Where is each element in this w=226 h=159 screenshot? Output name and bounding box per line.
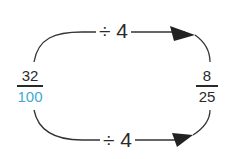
- top-operation: ÷ 4: [96, 20, 131, 42]
- right-denominator: 25: [196, 88, 218, 105]
- right-numerator: 8: [196, 67, 218, 84]
- left-denominator: 100: [17, 88, 43, 105]
- fraction-bar: [17, 85, 43, 87]
- left-fraction: 32 100: [17, 67, 43, 105]
- fraction-bar: [196, 85, 218, 87]
- bottom-operation: ÷ 4: [100, 129, 135, 151]
- right-fraction: 8 25: [196, 67, 218, 105]
- left-numerator: 32: [17, 67, 43, 84]
